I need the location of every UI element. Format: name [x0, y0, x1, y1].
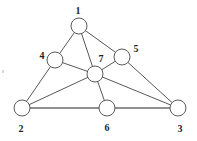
graph-node-2[interactable] — [14, 100, 30, 116]
graph-node-3[interactable] — [170, 100, 186, 116]
graph-node-label-3: 3 — [178, 124, 183, 134]
graph-node-4[interactable] — [47, 52, 63, 68]
graph-canvas — [0, 0, 197, 141]
graph-node-label-6: 6 — [105, 123, 110, 133]
edge-layer — [22, 26, 178, 108]
graph-node-label-7: 7 — [99, 54, 104, 64]
graph-node-6[interactable] — [99, 100, 115, 116]
graph-node-1[interactable] — [71, 18, 87, 34]
node-layer — [14, 18, 186, 116]
graph-node-5[interactable] — [114, 49, 130, 65]
graph-node-label-2: 2 — [19, 124, 24, 134]
graph-node-label-1: 1 — [76, 6, 81, 16]
graph-node-label-4: 4 — [40, 51, 45, 61]
graph-edge-7-2 — [22, 74, 95, 108]
graph-node-7[interactable] — [87, 66, 103, 82]
graph-node-label-5: 5 — [134, 44, 139, 54]
graph-diagram: 1234567 — [0, 0, 197, 141]
graph-edge-5-3 — [122, 57, 178, 108]
edge-speck — [2, 70, 4, 73]
